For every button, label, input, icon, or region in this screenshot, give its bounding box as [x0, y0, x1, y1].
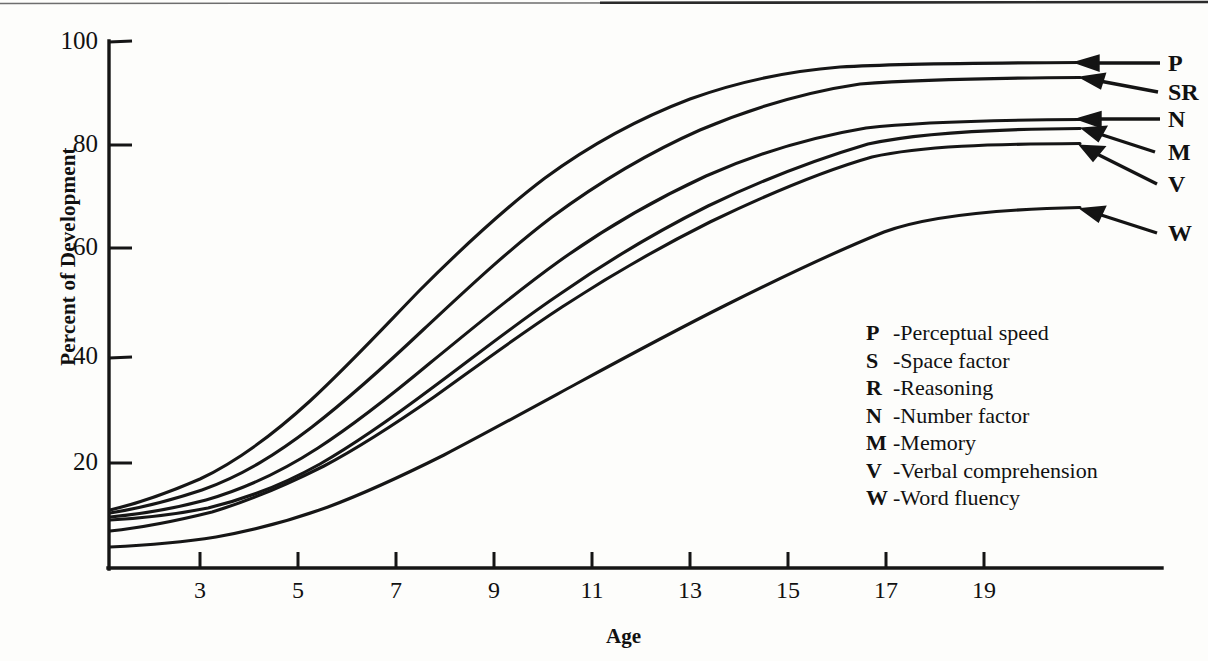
- legend-item-R: R -Reasoning: [866, 375, 1098, 403]
- legend-key-N: N: [866, 403, 893, 429]
- legend-item-V: V -Verbal comprehension: [866, 458, 1098, 486]
- ytick-label-20: 20: [36, 448, 98, 476]
- legend-item-N: N -Number factor: [866, 403, 1098, 431]
- legend-text-R: -Reasoning: [893, 375, 993, 401]
- xtick-label-13: 13: [666, 577, 714, 604]
- series-label-V: V: [1168, 171, 1185, 198]
- xtick-label-19: 19: [960, 577, 1008, 604]
- legend-text-V: -Verbal comprehension: [893, 458, 1098, 484]
- legend-key-S: S: [866, 348, 893, 374]
- series-pointer-arrows: [1078, 57, 1160, 234]
- legend-key-P: P: [866, 320, 893, 346]
- legend-item-S: S -Space factor: [866, 348, 1098, 376]
- xtick-label-15: 15: [764, 577, 812, 604]
- series-label-SR: SR: [1168, 79, 1199, 106]
- xtick-label-9: 9: [470, 577, 518, 604]
- xtick-label-5: 5: [274, 577, 322, 604]
- xtick-label-11: 11: [568, 577, 616, 604]
- legend-text-P: -Perceptual speed: [893, 320, 1049, 346]
- legend-item-P: P -Perceptual speed: [866, 320, 1098, 348]
- ytick-label-100: 100: [36, 27, 98, 55]
- legend-text-M: -Memory: [893, 430, 976, 456]
- legend-text-S: -Space factor: [893, 348, 1010, 374]
- x-axis-title: Age: [606, 624, 641, 649]
- series-label-W: W: [1168, 220, 1192, 247]
- legend: P -Perceptual speed S -Space factor R -R…: [866, 320, 1098, 513]
- legend-key-W: W: [866, 485, 893, 511]
- series-label-M: M: [1168, 139, 1191, 166]
- axis-ticks-y: [109, 41, 132, 463]
- legend-item-W: W -Word fluency: [866, 485, 1098, 513]
- legend-key-V: V: [866, 458, 893, 484]
- y-axis-title: Percent of Development: [56, 92, 81, 422]
- xtick-label-17: 17: [862, 577, 910, 604]
- axis-ticks-x: [200, 552, 984, 568]
- legend-key-R: R: [866, 375, 893, 401]
- legend-text-N: -Number factor: [893, 403, 1029, 429]
- legend-text-W: -Word fluency: [893, 485, 1020, 511]
- xtick-label-3: 3: [176, 577, 224, 604]
- legend-key-M: M: [866, 430, 893, 456]
- legend-item-M: M -Memory: [866, 430, 1098, 458]
- xtick-label-7: 7: [372, 577, 420, 604]
- series-label-P: P: [1168, 50, 1183, 77]
- series-label-N: N: [1168, 106, 1185, 133]
